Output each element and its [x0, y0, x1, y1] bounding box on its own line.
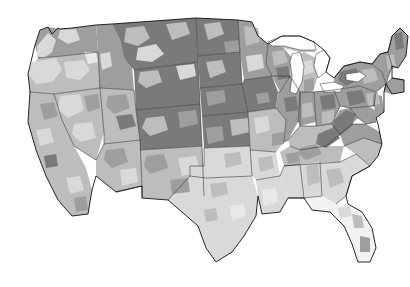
county-patch: [322, 110, 334, 124]
us-choropleth-map: [0, 0, 410, 287]
county-patch: [276, 66, 290, 80]
county-patch: [170, 178, 190, 194]
county-patch: [44, 154, 58, 168]
county-patch: [74, 196, 88, 212]
county-patch: [256, 92, 270, 104]
county-patch: [204, 208, 218, 222]
county-patch: [320, 94, 336, 110]
county-patch: [224, 40, 240, 54]
county-patch: [286, 152, 300, 164]
county-patch: [360, 236, 370, 252]
map-canvas: [0, 0, 410, 287]
county-patch: [302, 102, 314, 118]
county-patch: [284, 96, 298, 112]
county-patch: [272, 132, 284, 146]
county-patch: [304, 78, 314, 92]
county-patch: [306, 164, 320, 186]
county-patch: [338, 206, 352, 218]
county-patch: [366, 92, 380, 106]
